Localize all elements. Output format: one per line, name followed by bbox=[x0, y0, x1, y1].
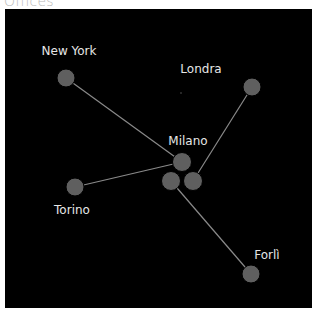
node-torino[interactable] bbox=[66, 178, 84, 196]
node-londra[interactable] bbox=[243, 78, 261, 96]
node-forli[interactable] bbox=[242, 265, 260, 283]
node-milano-a[interactable] bbox=[162, 172, 181, 191]
edges bbox=[66, 78, 252, 274]
label-torino: Torino bbox=[54, 203, 90, 217]
node-milano[interactable] bbox=[173, 153, 192, 172]
node-new-york[interactable] bbox=[57, 69, 75, 87]
label-forli: Forlì bbox=[254, 248, 279, 262]
edge-newyork-milano bbox=[66, 78, 182, 162]
label-londra: Londra bbox=[180, 62, 221, 76]
label-milano: Milano bbox=[168, 134, 207, 148]
edge-milano-forli bbox=[171, 181, 251, 274]
label-new-york: New York bbox=[42, 44, 97, 58]
node-milano-b[interactable] bbox=[184, 172, 203, 191]
stray-dot bbox=[180, 92, 182, 94]
